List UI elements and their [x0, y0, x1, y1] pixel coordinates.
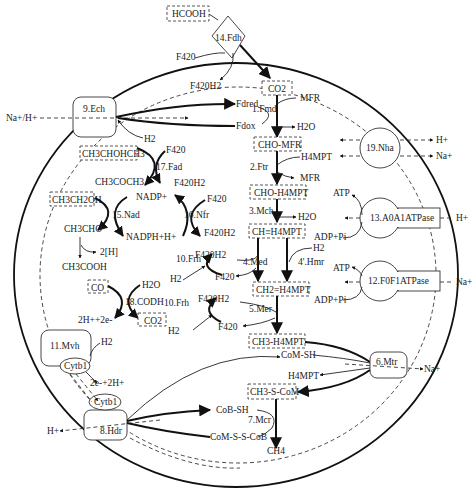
adp-12-label: ADP+Pi: [314, 295, 347, 305]
atp-12-label: ATP: [333, 263, 350, 273]
hdr-label: 8.Hdr: [100, 426, 123, 436]
na-mtr-label: Na+: [424, 364, 440, 374]
mtr-label: 6.Mtr: [376, 357, 398, 367]
mch-label: 3.Mch: [249, 206, 274, 216]
h2-frh1-label: H2: [170, 274, 182, 284]
mvh-label: 11.Mvh: [50, 341, 80, 351]
isopropanol-label: CH3CHOHCH3: [82, 149, 145, 159]
electrons-label: 2H++2e-: [78, 315, 112, 325]
h4mpt-in-label: H4MPT: [301, 152, 332, 162]
h2-hmr-label: H2: [313, 243, 325, 253]
h4mpt-out-label: H4MPT: [288, 371, 319, 381]
co-label: CO: [91, 283, 104, 293]
f420-frh2-label: F420: [218, 322, 238, 332]
mcr-label: 7.Mcr: [248, 415, 272, 425]
two-h-label: 2[H]: [100, 247, 118, 257]
na-h-label: Na+/H+: [6, 113, 37, 123]
f420-nfr-label: F420: [207, 194, 227, 204]
h-13-label: H+: [456, 213, 468, 223]
f420-fad-label: F420: [166, 145, 186, 155]
f420h2-fad-label: F420H2: [174, 178, 205, 188]
f0f1-label: 12.F0F1ATPase: [368, 276, 429, 286]
nadph-label: NADPH+H+: [126, 232, 176, 242]
hcooh-label: HCOOH: [172, 9, 206, 19]
h-hdr-label: H+: [47, 426, 59, 436]
na-nha-label: Na+: [436, 151, 452, 161]
h2o-codh-label: H2O: [142, 280, 161, 290]
atp-13-label: ATP: [333, 188, 350, 198]
ch2-h4mpt-label: CH2=H4MPT: [256, 285, 311, 295]
ech-enzyme: [73, 97, 116, 137]
h-nha-label: H+: [436, 135, 448, 145]
ch-h4mpt-label: CH≡H4MPT: [252, 227, 302, 237]
frh1-label: 10.Frh: [176, 254, 201, 264]
methanogenesis-diagram: HCOOH 14.Fdh F420 F420H2 CO2 MFR 1.Fmd H…: [0, 0, 476, 495]
h2o-label-1: H2O: [297, 122, 316, 132]
cytb-top-label: Cytb1: [64, 361, 87, 371]
acetaldehyde-label: CH3CHO: [64, 224, 102, 234]
co2-label: CO2: [268, 84, 286, 94]
fdh-label: 14.Fdh: [215, 33, 242, 43]
com-sh-label: CoM-SH: [281, 350, 316, 360]
f420-label: F420: [176, 52, 196, 62]
hmr-label: 4'.Hmr: [298, 257, 325, 267]
ech-label: 9.Ech: [83, 104, 105, 114]
acetate-label: CH3COOH: [62, 262, 107, 272]
fd-red-label: Fdred: [236, 99, 258, 109]
codh-label: 18.CODH: [125, 297, 164, 307]
fd-ox-label: Fdox: [236, 121, 256, 131]
frh2-label: 10.Frh: [164, 298, 189, 308]
nfr-label: 16.Nfr: [184, 210, 210, 220]
adp-13-label: ADP+Pi: [314, 232, 347, 242]
nadp-label: NADP+: [136, 192, 167, 202]
co2-codh-label: CO2: [144, 316, 162, 326]
fad-label: 17.Fad: [156, 162, 182, 172]
ch4-label: CH4: [267, 446, 285, 456]
cob-sh-label: CoB-SH: [216, 405, 249, 415]
na-12-label: Na+: [456, 277, 472, 287]
heterodisulfide-label: CoM-S-S-CoB: [210, 432, 267, 442]
mfr-out-label: MFR: [300, 173, 321, 183]
e-h-label: 2e-+2H+: [90, 378, 124, 388]
cytb-bottom-label: Cytb1: [94, 397, 117, 407]
f420h2-label: F420H2: [190, 81, 221, 91]
ch3-h4mpt-label: CH3-H4MPT: [252, 337, 304, 347]
h2-frh2-label: H2: [168, 326, 180, 336]
h2-ech-label: H2: [144, 134, 156, 144]
nha-label: 19.Nha: [366, 143, 394, 153]
acetone-label: CH3COCH3: [95, 177, 144, 187]
ftr-label: 2.Ftr: [250, 162, 269, 172]
cho-h4mpt-label: CHO-H4MPT: [254, 188, 309, 198]
h2-mvh-label: H2: [101, 337, 113, 347]
f420h2-nfr-label: F420H2: [204, 228, 235, 238]
cho-mfr-label: CHO-MFR: [258, 140, 302, 150]
mfr-in-label: MFR: [300, 93, 321, 103]
h2o-label-3: H2O: [298, 212, 317, 222]
ch3-s-com-label: CH3-S-CoM: [250, 387, 300, 397]
nad-label: 15.Nad: [112, 210, 140, 220]
ethanol-label: CH3CH2OH: [52, 195, 102, 205]
a0a1-label: 13.A0A1ATPase: [370, 213, 434, 223]
